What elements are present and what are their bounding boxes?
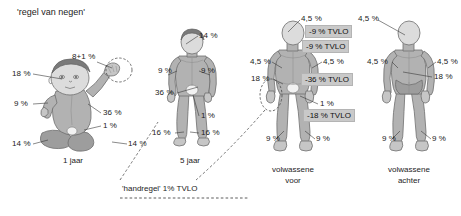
adult-back-label-arm-left: 4,5 % xyxy=(367,57,388,66)
hand-rule-note: 'handregel' 1% TVLO xyxy=(122,184,197,193)
adult-back-label-leg-right: 9 % xyxy=(432,134,446,143)
adult-back-label-arm-right: 4,5 % xyxy=(437,57,458,66)
adult-back-label-trunk: 18 % xyxy=(434,72,453,81)
rule-of-nines-diagram: 'regel van negen' xyxy=(0,0,461,216)
adult-back-caption-line1: volwassene xyxy=(379,165,439,174)
adult-back-caption-line2: achter xyxy=(379,176,439,185)
adult-back-label-leg-left: 9 % xyxy=(382,134,396,143)
adult-back-label-head: 4,5 % xyxy=(358,14,379,23)
